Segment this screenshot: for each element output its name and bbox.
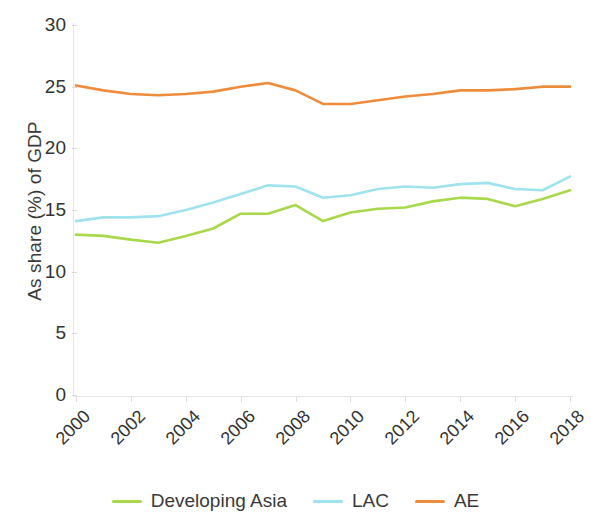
legend-item-developing-asia[interactable]: Developing Asia — [112, 490, 287, 512]
series-line-lac — [76, 177, 570, 221]
chart-legend: Developing AsiaLACAE — [0, 490, 591, 512]
legend-item-ae[interactable]: AE — [415, 490, 479, 512]
legend-item-lac[interactable]: LAC — [313, 490, 389, 512]
plot-area — [0, 0, 591, 524]
legend-swatch-icon — [112, 500, 142, 503]
line-chart: As share (%) of GDP 051015202530 2000200… — [0, 0, 591, 524]
legend-swatch-icon — [313, 500, 343, 503]
legend-label: AE — [454, 490, 479, 512]
legend-label: Developing Asia — [151, 490, 287, 512]
legend-swatch-icon — [415, 500, 445, 503]
legend-label: LAC — [352, 490, 389, 512]
series-line-ae — [76, 83, 570, 104]
